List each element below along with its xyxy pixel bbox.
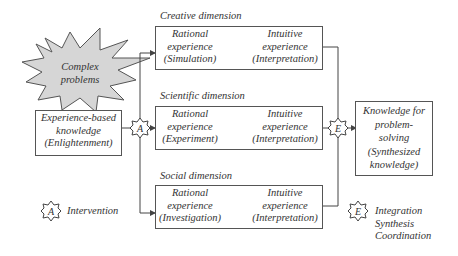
input-line3: (Enlightenment): [35, 137, 122, 150]
legend-a-star-icon: A: [41, 201, 61, 221]
scientific-intuitive-label: Intuitive experience (Interpretation): [248, 108, 322, 146]
text-line: (Synthesized: [355, 145, 433, 159]
text-line: experience: [156, 121, 224, 134]
social-dimension-title: Social dimension: [160, 170, 232, 181]
scientific-dimension-title: Scientific dimension: [160, 90, 245, 101]
text-line: Rational: [156, 187, 224, 200]
input-line2: knowledge: [35, 125, 122, 138]
text-line: experience: [156, 200, 224, 213]
node-e-star-icon: E: [328, 118, 348, 138]
text-line: solving: [355, 131, 433, 145]
text-line: Integration: [375, 205, 431, 218]
complex-line1: Complex: [50, 61, 110, 74]
text-line: (Interpretation): [248, 53, 322, 66]
text-line: Coordination: [375, 230, 431, 243]
complex-line2: problems: [50, 74, 110, 87]
text-line: Intuitive: [248, 108, 322, 121]
text-line: (Investigation): [156, 212, 224, 225]
text-line: experience: [248, 200, 322, 213]
text-line: Rational: [156, 28, 224, 41]
svg-text:E: E: [334, 123, 341, 134]
svg-text:E: E: [354, 206, 361, 217]
complex-problems-label: Complex problems: [50, 61, 110, 86]
legend-e-star-icon: E: [348, 201, 368, 221]
text-line: (Interpretation): [248, 133, 322, 146]
text-line: Synthesis: [375, 218, 431, 231]
text-line: Knowledge for: [355, 104, 433, 118]
text-line: problem-: [355, 118, 433, 132]
creative-intuitive-label: Intuitive experience (Interpretation): [248, 28, 322, 66]
text-line: Rational: [156, 108, 224, 121]
text-line: experience: [156, 41, 224, 54]
scientific-rational-label: Rational experience (Experiment): [156, 108, 224, 146]
experience-based-knowledge-label: Experience-based knowledge (Enlightenmen…: [35, 112, 122, 150]
text-line: experience: [248, 41, 322, 54]
creative-dimension-title: Creative dimension: [160, 10, 242, 21]
node-a-star-icon: A: [130, 118, 150, 138]
text-line: Intuitive: [248, 187, 322, 200]
legend-e-label: Integration Synthesis Coordination: [375, 205, 431, 243]
svg-text:A: A: [136, 123, 144, 134]
social-intuitive-label: Intuitive experience (Interpretation): [248, 187, 322, 225]
text-line: (Interpretation): [248, 212, 322, 225]
creative-rational-label: Rational experience (Simulation): [156, 28, 224, 66]
text-line: knowledge): [355, 158, 433, 172]
svg-text:A: A: [47, 206, 55, 217]
text-line: (Experiment): [156, 133, 224, 146]
input-line1: Experience-based: [35, 112, 122, 125]
synthesized-knowledge-label: Knowledge for problem- solving (Synthesi…: [355, 104, 433, 172]
social-rational-label: Rational experience (Investigation): [156, 187, 224, 225]
legend-a-label: Intervention: [67, 205, 118, 216]
text-line: Intuitive: [248, 28, 322, 41]
text-line: experience: [248, 121, 322, 134]
text-line: (Simulation): [156, 53, 224, 66]
